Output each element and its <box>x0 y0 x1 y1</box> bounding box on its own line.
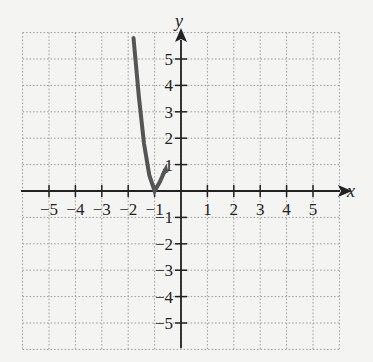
y-tick-label: 2 <box>165 129 174 148</box>
y-tick-label: 3 <box>165 103 174 122</box>
coordinate-plane: −5−4−3−2−11234554321−1−2−3−4−5 x y <box>0 0 373 362</box>
x-tick-label: −4 <box>66 200 85 219</box>
y-tick-label: −3 <box>155 261 173 280</box>
x-tick-label: 1 <box>203 200 212 219</box>
y-tick-label: −4 <box>155 288 174 307</box>
x-tick-label: −3 <box>93 200 111 219</box>
y-tick-label: −1 <box>155 208 173 227</box>
x-tick-label: 5 <box>309 200 318 219</box>
y-tick-label: −2 <box>155 235 173 254</box>
y-tick-label: −5 <box>155 314 173 333</box>
y-axis-label: y <box>173 11 183 31</box>
x-tick-label: −2 <box>119 200 137 219</box>
axes <box>21 28 352 348</box>
y-tick-label: 4 <box>165 76 174 95</box>
y-tick-label: 5 <box>165 50 174 69</box>
x-axis-label: x <box>346 181 355 201</box>
x-tick-label: 4 <box>282 200 291 219</box>
x-tick-label: −5 <box>40 200 58 219</box>
x-tick-label: 2 <box>230 200 239 219</box>
graph-svg: −5−4−3−2−11234554321−1−2−3−4−5 x y <box>0 0 373 362</box>
function-curve <box>134 38 166 191</box>
x-tick-label: 3 <box>256 200 265 219</box>
